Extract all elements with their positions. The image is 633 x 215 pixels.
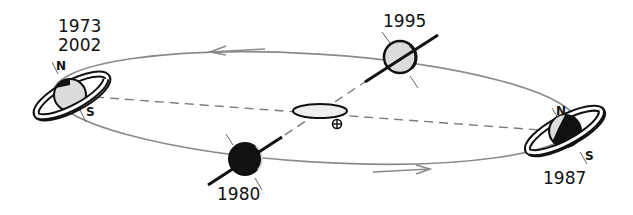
earth-icon xyxy=(333,120,342,129)
year-label-1980: 1980 xyxy=(217,184,260,204)
saturn-left-1973-2002: N S 1973 2002 xyxy=(31,16,114,126)
north-label: N xyxy=(56,59,66,73)
north-label: N xyxy=(556,104,566,118)
arrow-top-left-icon xyxy=(210,46,265,55)
year-label-1995: 1995 xyxy=(383,11,426,31)
saturn-bottom-1980: 1980 xyxy=(208,134,282,204)
south-label: S xyxy=(585,149,594,163)
year-label-1973: 1973 xyxy=(58,16,101,36)
saturn-orbit-diagram: N S 1973 2002 1995 N S 1987 1980 xyxy=(0,0,633,215)
sun-ellipse xyxy=(293,104,347,118)
axis-north-tick xyxy=(382,32,390,43)
saturn-top-1995: 1995 xyxy=(365,11,438,88)
year-label-1987: 1987 xyxy=(543,168,586,188)
axis-north-tick xyxy=(226,134,233,145)
arrow-bottom-right-icon xyxy=(373,165,430,174)
axis-south-tick xyxy=(410,76,418,88)
saturn-right-1987: N S 1987 xyxy=(522,100,608,188)
year-label-2002: 2002 xyxy=(58,35,101,55)
south-label: S xyxy=(86,105,95,119)
